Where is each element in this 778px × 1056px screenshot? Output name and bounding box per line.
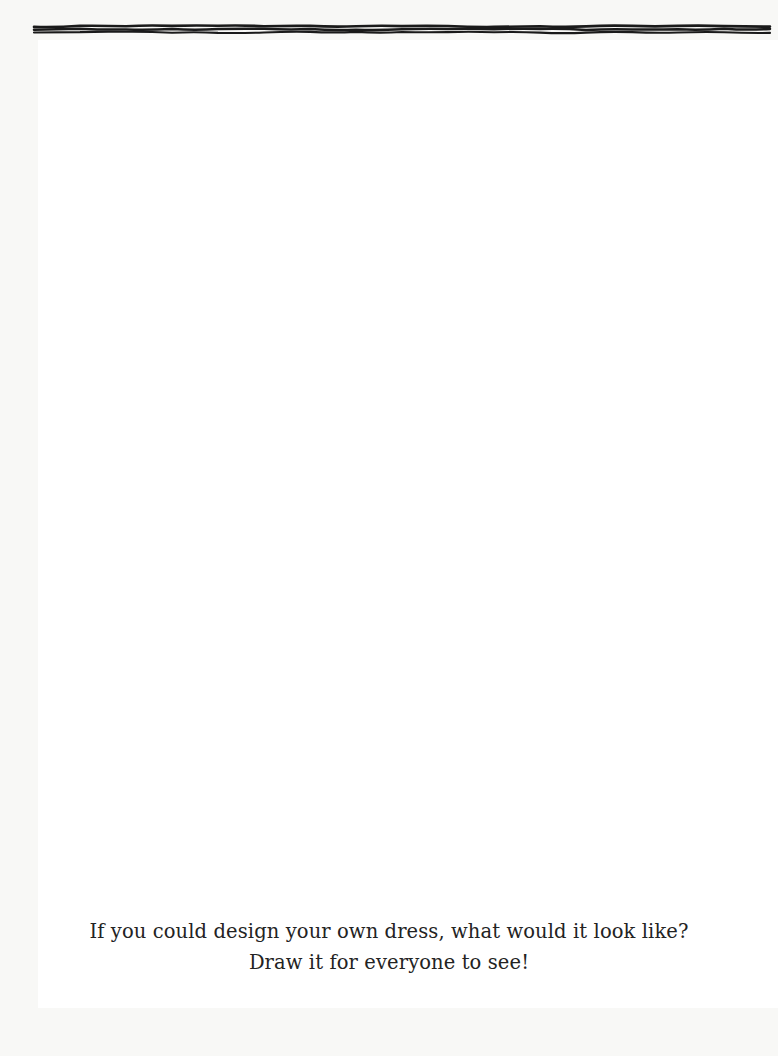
prompt-line-2: Draw it for everyone to see! [49,947,729,978]
drawing-area[interactable] [38,40,778,1008]
worksheet-page: If you could design your own dress, what… [0,0,778,1056]
prompt-line-1: If you could design your own dress, what… [49,916,729,947]
prompt-text: If you could design your own dress, what… [49,916,729,978]
